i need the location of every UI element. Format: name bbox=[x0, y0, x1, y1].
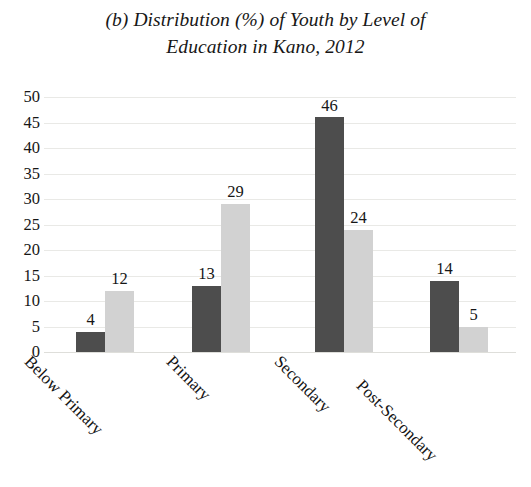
x-category-primary: Primary bbox=[163, 352, 215, 404]
y-tick-15: 15 bbox=[0, 267, 40, 284]
bar-below-primary-series-1[interactable] bbox=[76, 332, 105, 352]
bar-group-post-secondary: 14 5 bbox=[430, 97, 488, 352]
y-tick-5: 5 bbox=[0, 318, 40, 335]
bar-group-secondary: 46 24 bbox=[315, 97, 373, 352]
bar-value-secondary-series-2: 24 bbox=[344, 209, 373, 226]
bar-value-post-secondary-series-1: 14 bbox=[430, 260, 459, 277]
bar-primary-series-2[interactable] bbox=[221, 204, 250, 352]
y-tick-10: 10 bbox=[0, 292, 40, 309]
bar-value-secondary-series-1: 46 bbox=[315, 97, 344, 114]
x-category-post-secondary: Post-Secondary bbox=[353, 376, 442, 465]
y-tick-40: 40 bbox=[0, 139, 40, 156]
bar-below-primary-series-2[interactable] bbox=[105, 291, 134, 352]
y-tick-20: 20 bbox=[0, 241, 40, 258]
bar-primary-series-1[interactable] bbox=[192, 286, 221, 352]
bar-value-post-secondary-series-2: 5 bbox=[459, 306, 488, 323]
bar-value-primary-series-2: 29 bbox=[221, 183, 250, 200]
x-category-below-primary: Below Primary bbox=[21, 352, 108, 439]
y-tick-25: 25 bbox=[0, 216, 40, 233]
chart-title-line-2: Education in Kano, 2012 bbox=[0, 33, 531, 60]
bar-post-secondary-series-1[interactable] bbox=[430, 281, 459, 352]
bar-secondary-series-1[interactable] bbox=[315, 117, 344, 352]
x-category-secondary: Secondary bbox=[271, 352, 335, 416]
bar-value-below-primary-series-2: 12 bbox=[105, 270, 134, 287]
y-tick-50: 50 bbox=[0, 88, 40, 105]
y-tick-35: 35 bbox=[0, 165, 40, 182]
chart-title: (b) Distribution (%) of Youth by Level o… bbox=[0, 6, 531, 60]
plot-area: 4 12 13 29 46 24 14 5 bbox=[44, 97, 516, 352]
chart-title-line-1: (b) Distribution (%) of Youth by Level o… bbox=[0, 6, 531, 33]
y-tick-45: 45 bbox=[0, 114, 40, 131]
y-axis: 50 45 40 35 30 25 20 15 10 5 0 bbox=[0, 88, 40, 363]
x-axis: Below Primary Primary Secondary Post-Sec… bbox=[0, 352, 531, 487]
bar-group-below-primary: 4 12 bbox=[76, 97, 134, 352]
bar-group-primary: 13 29 bbox=[192, 97, 250, 352]
bar-post-secondary-series-2[interactable] bbox=[459, 327, 488, 353]
y-tick-30: 30 bbox=[0, 190, 40, 207]
bar-value-below-primary-series-1: 4 bbox=[76, 311, 105, 328]
bar-secondary-series-2[interactable] bbox=[344, 230, 373, 352]
bar-value-primary-series-1: 13 bbox=[192, 265, 221, 282]
